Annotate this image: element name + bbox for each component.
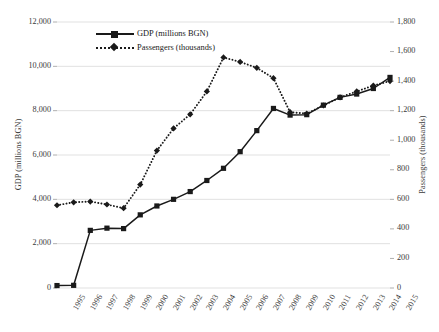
- legend-key-diamond-icon: [96, 43, 134, 53]
- y-axis-right-tick-label: 800: [397, 164, 439, 173]
- y-axis-left-tick-label: 2,000: [7, 238, 51, 247]
- dual-axis-line-chart: GDP (millions BGN) Passengers (thousands…: [0, 0, 439, 332]
- legend-item: Passengers (thousands): [96, 41, 215, 55]
- legend-label: Passengers (thousands): [137, 41, 215, 55]
- y-axis-right-tick-label: 400: [397, 223, 439, 232]
- y-axis-left-tick-label: 4,000: [7, 194, 51, 203]
- legend-label: GDP (millions BGN): [137, 27, 208, 41]
- y-axis-right-tick-label: 1,600: [397, 46, 439, 55]
- y-axis-left-tick-label: 8,000: [7, 105, 51, 114]
- y-axis-left-tick-label: 12,000: [7, 17, 51, 26]
- y-axis-right-tick-label: 1,400: [397, 76, 439, 85]
- y-axis-left-tick-label: 0: [7, 283, 51, 292]
- legend-key-square-icon: [96, 29, 134, 39]
- legend-item: GDP (millions BGN): [96, 27, 215, 41]
- y-axis-right-tick-label: 0: [397, 283, 439, 292]
- diamond-marker-icon: [110, 43, 118, 51]
- y-axis-right-tick-label: 1,800: [397, 17, 439, 26]
- plot-area: [0, 0, 439, 332]
- y-axis-left-tick-label: 10,000: [7, 61, 51, 70]
- y-axis-right-tick-label: 1,200: [397, 105, 439, 114]
- y-axis-right-tick-label: 1,000: [397, 135, 439, 144]
- y-axis-left-tick-label: 6,000: [7, 150, 51, 159]
- square-marker-icon: [111, 31, 118, 38]
- chart-legend: GDP (millions BGN)Passengers (thousands): [96, 27, 215, 55]
- y-axis-right-tick-label: 600: [397, 194, 439, 203]
- y-axis-right-tick-label: 200: [397, 253, 439, 262]
